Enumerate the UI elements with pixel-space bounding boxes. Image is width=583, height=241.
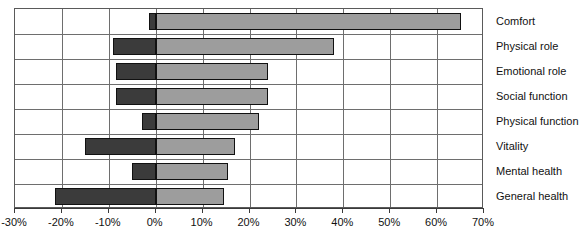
x-axis-tick-label: -20% [36,216,86,228]
bar-negative [55,188,156,205]
bar-positive [156,38,334,55]
bar-negative [142,113,156,130]
x-axis-tick-label: 10% [177,216,227,228]
category-label: Mental health [496,165,562,177]
x-axis-tick [155,208,156,213]
x-axis-tick [342,208,343,213]
x-axis-tick [61,208,62,213]
x-axis-tick-label: 70% [458,216,508,228]
category-label: Physical role [496,40,558,52]
x-axis-tick-label: 30% [270,216,320,228]
x-axis-tick-label: 40% [317,216,367,228]
x-axis-tick-label: 60% [411,216,461,228]
category-label: Vitality [496,140,528,152]
bar-positive [156,13,461,30]
bar-row [15,59,482,84]
x-axis-tick-label: 20% [224,216,274,228]
bar-negative [132,163,155,180]
x-axis-tick [202,208,203,213]
x-axis-tick [436,208,437,213]
category-label: Social function [496,90,568,102]
x-axis-tick [389,208,390,213]
x-axis-tick [295,208,296,213]
bar-positive [156,63,269,80]
bar-row [15,159,482,184]
bar-row [15,34,482,59]
x-axis-tick-label: -30% [0,216,39,228]
bar-negative [149,13,156,30]
bar-row [15,184,482,209]
x-axis-tick [14,208,15,213]
bar-row [15,134,482,159]
bar-positive [156,188,224,205]
x-axis-tick [249,208,250,213]
bar-row [15,9,482,34]
bar-row [15,109,482,134]
bar-negative [113,38,155,55]
bar-negative [116,63,156,80]
category-label: General health [496,190,568,202]
bar-positive [156,88,269,105]
category-label: Physical function [496,115,579,127]
x-axis-tick [108,208,109,213]
x-axis-tick-label: -10% [83,216,133,228]
bar-row [15,84,482,109]
x-axis-tick-label: 0% [130,216,180,228]
plot-area [14,8,483,208]
bar-positive [156,113,259,130]
bar-positive [156,138,236,155]
bar-negative [116,88,156,105]
percentage-change-bar-chart: -30%-20%-10%0%10%20%30%40%50%60%70% Comf… [0,0,583,241]
bar-negative [85,138,155,155]
category-label: Comfort [496,15,535,27]
x-axis-tick-label: 50% [364,216,414,228]
category-label: Emotional role [496,65,566,77]
x-axis-tick [483,208,484,213]
bar-positive [156,163,229,180]
